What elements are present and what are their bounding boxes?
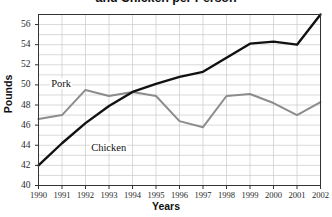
y-axis-tick-label: 54: [11, 39, 31, 49]
y-axis-tick-label: 52: [11, 59, 31, 69]
line-chart-figure: and Chicken per Person Pounds Years 4042…: [0, 0, 332, 217]
y-axis-tick-label: 40: [11, 180, 31, 190]
series-annotation-pork: Pork: [50, 78, 72, 89]
grid-lines: [39, 15, 321, 186]
x-axis-tick-label: 2002: [306, 190, 332, 200]
y-axis-tick-label: 50: [11, 79, 31, 89]
y-axis-tick-label: 48: [11, 100, 31, 110]
plot-area: [0, 0, 332, 217]
axis-ticks: [35, 25, 321, 189]
series-annotation-chicken: Chicken: [90, 142, 127, 153]
y-axis-tick-label: 42: [11, 160, 31, 170]
y-axis-tick-label: 46: [11, 120, 31, 130]
y-axis-tick-label: 56: [11, 19, 31, 29]
y-axis-tick-label: 44: [11, 140, 31, 150]
